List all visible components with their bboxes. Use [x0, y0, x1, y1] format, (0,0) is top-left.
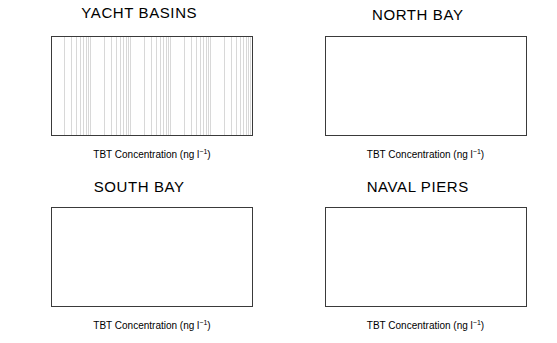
bar-series [52, 37, 252, 135]
bar-series [326, 37, 526, 135]
x-axis-title-tail: ) [207, 320, 210, 331]
plot-area-wrapper [325, 207, 527, 307]
x-axis-title-tail: ) [481, 149, 484, 160]
panel-naval-piers: NAVAL PIERS TBT Concentration (ng l−1) [279, 172, 557, 343]
plot-area [51, 36, 253, 136]
bar-series [326, 208, 526, 306]
plot-area-wrapper [325, 36, 527, 136]
x-axis-title-text: TBT Concentration (ng l [93, 149, 199, 160]
plot-area [325, 207, 527, 307]
x-axis-title-exponent: −1 [473, 318, 481, 325]
x-axis-title: TBT Concentration (ng l−1) [30, 320, 274, 331]
x-axis-title-text: TBT Concentration (ng l [367, 320, 473, 331]
panel-title: SOUTH BAY [0, 178, 279, 195]
x-axis-title-tail: ) [481, 320, 484, 331]
panel-title: NAVAL PIERS [279, 178, 557, 195]
plot-area-wrapper [51, 36, 253, 136]
x-axis-title-exponent: −1 [473, 148, 481, 155]
panel-north-bay: NORTH BAY TBT Concentration (ng l−1) [279, 0, 557, 172]
figure-panel-grid: YACHT BASINS TBT Concentration (ng l−1) … [0, 0, 557, 343]
panel-south-bay: SOUTH BAY TBT Concentration (ng l−1) [0, 172, 279, 343]
panel-yacht-basins: YACHT BASINS TBT Concentration (ng l−1) [0, 0, 279, 172]
x-axis-title: TBT Concentration (ng l−1) [304, 320, 548, 331]
x-axis-title: TBT Concentration (ng l−1) [304, 149, 548, 160]
top-cut-text [300, 0, 500, 7]
plot-area [325, 36, 527, 136]
bar-series [52, 208, 252, 306]
plot-area [51, 207, 253, 307]
panel-title: NORTH BAY [279, 6, 557, 23]
x-axis-title: TBT Concentration (ng l−1) [30, 149, 274, 160]
plot-area-wrapper [51, 207, 253, 307]
panel-title: YACHT BASINS [0, 4, 279, 21]
x-axis-title-text: TBT Concentration (ng l [367, 149, 473, 160]
x-axis-title-text: TBT Concentration (ng l [93, 320, 199, 331]
x-axis-title-tail: ) [207, 149, 210, 160]
